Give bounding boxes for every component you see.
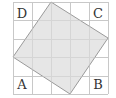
label-b: B [93,77,103,92]
label-d: D [17,6,27,21]
grid-square-diagram: D C A B [0,0,116,98]
label-c: C [93,6,103,21]
label-a: A [16,77,27,92]
